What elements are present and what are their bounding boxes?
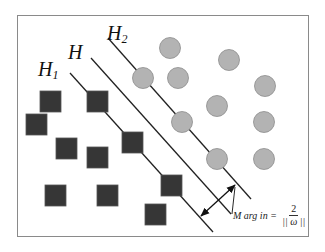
label-h1-sub: 1 — [52, 68, 58, 82]
label-h2-sub: 2 — [121, 32, 127, 46]
circle-point — [172, 112, 193, 133]
margin-double-arrow — [201, 185, 235, 216]
label-h: H — [68, 42, 82, 62]
square-point — [122, 132, 143, 153]
formula-denominator: || ω || — [282, 216, 305, 228]
label-h2-main: H — [107, 22, 121, 44]
label-h-main: H — [68, 41, 82, 63]
square-point — [87, 147, 108, 168]
square-point — [26, 114, 47, 135]
circle-point — [133, 68, 154, 89]
label-h1-main: H — [38, 58, 52, 80]
formula-lhs: M arg in — [233, 210, 268, 221]
formula-equals: = — [271, 210, 277, 221]
square-point — [45, 185, 66, 206]
label-h2: H2 — [107, 23, 127, 45]
square-point — [145, 204, 166, 225]
formula-numerator: 2 — [289, 203, 298, 216]
square-point — [40, 91, 61, 112]
square-point — [161, 175, 182, 196]
circle-point — [254, 112, 275, 133]
negative-class-squares — [26, 91, 182, 225]
circle-point — [160, 38, 181, 59]
svm-diagram: H1 H H2 M arg in = 2 || ω || — [0, 0, 325, 252]
circle-point — [255, 76, 276, 97]
square-point — [56, 138, 77, 159]
label-h1: H1 — [38, 59, 58, 81]
margin-arrow — [201, 185, 235, 216]
margin-formula: M arg in = 2 || ω || — [233, 203, 305, 228]
circle-point — [219, 50, 240, 71]
circle-point — [168, 68, 189, 89]
circle-point — [254, 149, 275, 170]
square-point — [97, 185, 118, 206]
circle-point — [207, 96, 228, 117]
circle-point — [207, 149, 228, 170]
square-point — [87, 91, 108, 112]
formula-fraction: 2 || ω || — [282, 203, 305, 228]
positive-class-circles — [133, 38, 276, 170]
